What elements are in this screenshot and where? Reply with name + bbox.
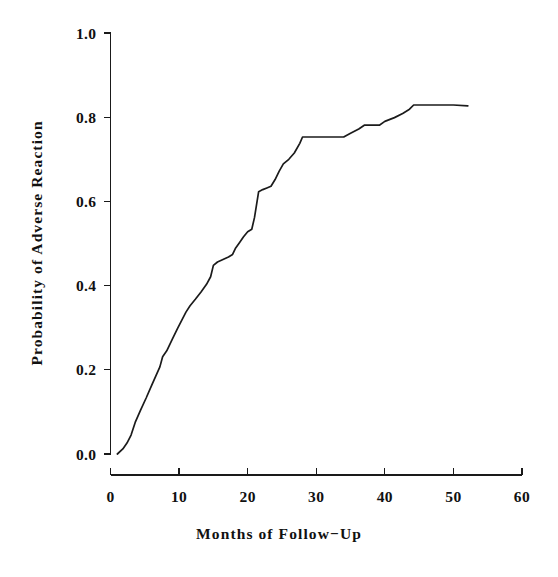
y-axis-tick-label: 0.2 — [76, 361, 97, 378]
y-axis-tick-label: 0.8 — [76, 109, 97, 126]
x-axis-tick-label: 60 — [514, 488, 530, 505]
x-axis-tick-label: 50 — [445, 488, 461, 505]
x-axis-tick-label: 20 — [240, 488, 256, 505]
x-axis-title: Months of Follow−Up — [196, 525, 362, 542]
y-axis-tick-label: 1.0 — [76, 25, 97, 42]
y-axis-tick-label: 0.4 — [76, 277, 97, 294]
data-series-group — [117, 105, 467, 454]
y-axis-tick-label: 0.6 — [76, 193, 97, 210]
x-axis: 0102030405060 — [106, 468, 530, 505]
y-axis: 0.00.20.40.60.81.0 — [76, 25, 111, 463]
x-axis-tick-label: 0 — [106, 488, 114, 505]
x-axis-tick-label: 10 — [171, 488, 187, 505]
x-axis-tick-label: 30 — [308, 488, 324, 505]
y-axis-tick-label: 0.0 — [76, 446, 97, 463]
y-axis-title: Probability of Adverse Reaction — [28, 120, 45, 365]
chart-svg: 0.00.20.40.60.81.0 0102030405060 Months … — [0, 0, 558, 577]
x-axis-tick-label: 40 — [377, 488, 393, 505]
chart-container: 0.00.20.40.60.81.0 0102030405060 Months … — [0, 0, 558, 577]
series-line-0 — [117, 105, 467, 454]
